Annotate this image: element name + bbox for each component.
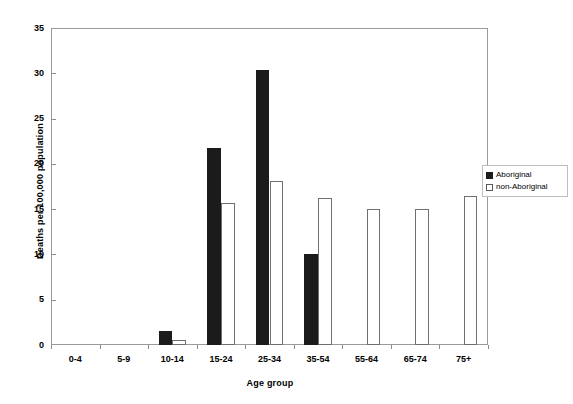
bar-65-74-non-aboriginal xyxy=(415,209,429,345)
x-tick-mark xyxy=(51,345,52,349)
y-tick-label: 25 xyxy=(14,114,44,123)
x-tick-mark xyxy=(294,345,295,349)
y-tick-label: 10 xyxy=(14,250,44,259)
y-tick-label: 15 xyxy=(14,205,44,214)
bar-35-54-non-aboriginal xyxy=(318,198,332,345)
bar-35-54-aboriginal xyxy=(304,254,318,345)
x-tick-mark xyxy=(197,345,198,349)
y-tick-label: 30 xyxy=(14,69,44,78)
x-tick-mark xyxy=(439,345,440,349)
x-tick-mark xyxy=(342,345,343,349)
bar-55-64-non-aboriginal xyxy=(367,209,381,345)
x-tick-mark xyxy=(245,345,246,349)
x-tick-mark xyxy=(488,345,489,349)
x-tick-mark xyxy=(391,345,392,349)
bars-layer xyxy=(51,28,488,345)
bar-chart: Deaths per 100,000 population 0510152025… xyxy=(0,0,573,404)
bar-15-24-non-aboriginal xyxy=(221,203,235,345)
bar-25-34-aboriginal xyxy=(256,70,270,345)
legend-item: non-Aboriginal xyxy=(486,181,564,193)
y-tick-label: 0 xyxy=(14,341,44,350)
legend-label: Aboriginal xyxy=(496,171,532,179)
x-axis-title: Age group xyxy=(0,378,540,388)
bar-10-14-non-aboriginal xyxy=(172,340,186,345)
x-tick-mark xyxy=(100,345,101,349)
bar-10-14-aboriginal xyxy=(159,331,173,345)
bar-25-34-non-aboriginal xyxy=(270,181,284,345)
x-tick-label: 75+ xyxy=(434,355,494,364)
legend-label: non-Aboriginal xyxy=(496,183,548,191)
chart-legend: Aboriginalnon-Aboriginal xyxy=(482,165,568,197)
y-tick-label: 20 xyxy=(14,159,44,168)
y-tick-label: 5 xyxy=(14,295,44,304)
x-tick-mark xyxy=(148,345,149,349)
y-tick-label: 35 xyxy=(14,24,44,33)
bar-75plus-non-aboriginal xyxy=(464,196,478,345)
filled-square-icon xyxy=(486,172,493,179)
bar-15-24-aboriginal xyxy=(207,148,221,345)
legend-item: Aboriginal xyxy=(486,169,564,181)
outline-square-icon xyxy=(486,184,493,191)
